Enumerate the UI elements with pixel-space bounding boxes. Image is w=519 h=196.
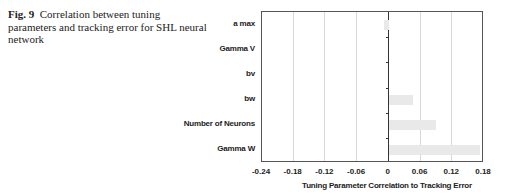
gridline bbox=[356, 12, 357, 161]
figure-label: Fig. 9 bbox=[8, 8, 34, 20]
plot-area bbox=[261, 11, 483, 162]
gridline bbox=[293, 12, 294, 161]
y-tick bbox=[386, 62, 389, 63]
x-axis-title: Tuning Parameter Correlation to Tracking… bbox=[262, 181, 512, 190]
y-category-label: bw bbox=[55, 94, 255, 103]
y-tick bbox=[386, 113, 389, 114]
y-category-label: Gamma W bbox=[55, 144, 255, 153]
bar bbox=[389, 95, 413, 105]
bar bbox=[389, 120, 436, 130]
gridline bbox=[324, 12, 325, 161]
gridline bbox=[451, 12, 452, 161]
y-category-label: a max bbox=[55, 19, 255, 28]
bar bbox=[384, 20, 389, 30]
bar bbox=[389, 145, 480, 155]
y-category-label: Number of Neurons bbox=[55, 119, 255, 128]
y-tick bbox=[386, 37, 389, 38]
y-tick bbox=[386, 138, 389, 139]
x-tick-label: 0.18 bbox=[463, 167, 503, 176]
y-category-label: bv bbox=[55, 69, 255, 78]
y-tick bbox=[386, 88, 389, 89]
gridline bbox=[420, 12, 421, 161]
y-category-label: Gamma V bbox=[55, 44, 255, 53]
